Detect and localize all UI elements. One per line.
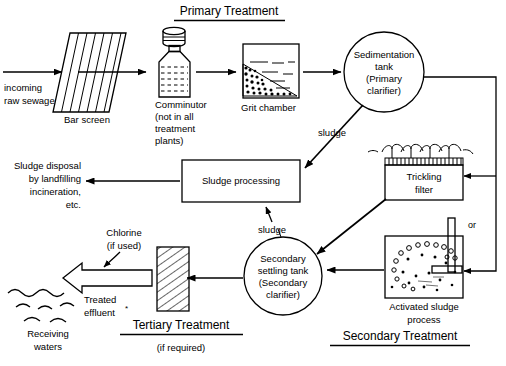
primary-effluent-trunk — [424, 77, 496, 176]
grit-chamber-label: Grit chamber — [241, 102, 296, 113]
arrow-tricklingfilter-to-settling — [317, 199, 386, 254]
secondary-settling-tank-label-line3: (Secondary — [259, 277, 308, 288]
incoming-sewage-label-line2: raw sewage — [4, 95, 55, 106]
activated-sludge-streaks — [418, 277, 444, 286]
receiving-waters-label-line2: waters — [33, 341, 62, 352]
tertiary-treatment-label: Tertiary Treatment — [133, 318, 230, 332]
chlorine-node: Chlorine (if used) — [104, 227, 142, 267]
arrow-chlorine-dose — [104, 252, 120, 267]
activated-sludge-label-line1: Activated sludge — [389, 301, 459, 312]
activated-sludge-tank — [385, 236, 463, 298]
treated-effluent-arrow — [63, 263, 152, 293]
comminutor-label-line4: plants) — [155, 135, 184, 146]
primary-sludge-route: sludge — [305, 105, 363, 168]
diffuser-drop-pipe — [448, 218, 455, 272]
arrow-secondary-sludge — [266, 207, 272, 222]
primary-sludge-label: sludge — [318, 127, 346, 138]
sludge-disposal-label-line1: Sludge disposal — [14, 160, 81, 171]
tertiary-treatment-note: (if required) — [157, 342, 206, 353]
sludge-disposal-node: Sludge disposal by landfilling incinerat… — [14, 160, 81, 210]
comminutor-label-line2: (not in all — [155, 111, 194, 122]
heading-tertiary-treatment: Tertiary Treatment (if required) — [120, 318, 243, 352]
secondary-treatment-label: Secondary Treatment — [343, 329, 458, 343]
activated-sludge-label-line2: process — [407, 314, 441, 325]
grit-chamber-node: Grit chamber — [241, 44, 299, 113]
trickling-filter-sprays — [368, 144, 473, 158]
secondary-sludge-route: sludge — [258, 207, 286, 237]
grit-chamber-water-lines — [250, 62, 295, 88]
secondary-settling-tank-label-line2: settling tank — [258, 265, 309, 276]
trickling-filter-node: Trickling filter — [368, 144, 473, 200]
tertiary-treatment-hatch — [157, 247, 189, 311]
sludge-processing-node: Sludge processing — [182, 160, 300, 202]
grit-chamber-grit-pile — [243, 64, 297, 96]
activated-sludge-diffuser — [432, 218, 462, 273]
trickling-filter-media-ticks — [389, 158, 461, 165]
treated-effluent-label-line2: effluent — [84, 307, 115, 318]
sludge-processing-label: Sludge processing — [202, 175, 280, 186]
bar-screen-node: Bar screen — [53, 33, 126, 125]
incoming-sewage-flow: incoming raw sewage — [3, 72, 62, 106]
comminutor-node: Comminutor (not in all treatment plants) — [155, 27, 207, 145]
secondary-to-settling-routes — [317, 199, 386, 270]
sludge-disposal-label-line4: etc. — [66, 199, 81, 210]
sedimentation-tank-label-line1: Sedimentation — [354, 49, 415, 60]
comminutor-motor-top — [163, 27, 185, 34]
incoming-sewage-label-line1: incoming — [4, 82, 42, 93]
treated-effluent-label-line1: Treated — [84, 294, 116, 305]
trickling-filter-label-line1: Trickling — [406, 171, 441, 182]
secondary-sludge-label: sludge — [258, 224, 286, 235]
sludge-disposal-label-line3: incineration, — [30, 186, 81, 197]
diffuser-header — [432, 266, 462, 273]
heading-primary-treatment: Primary Treatment — [174, 4, 285, 20]
tertiary-treatment-node — [157, 247, 189, 311]
secondary-settling-tank-node: Secondary settling tank (Secondary clari… — [244, 237, 322, 315]
comminutor-label-line3: treatment — [155, 123, 195, 134]
treated-effluent-footnote-marker: * — [125, 304, 128, 313]
sedimentation-tank-label-line3: (Primary — [366, 73, 402, 84]
treated-effluent-node: Treated effluent * — [63, 263, 152, 318]
sedimentation-tank-label-line2: tank — [375, 61, 393, 72]
sludge-disposal-label-line2: by landfilling — [29, 173, 81, 184]
comminutor-body — [159, 52, 190, 98]
comminutor-label-line1: Comminutor — [155, 99, 207, 110]
chlorine-label-line1: Chlorine — [106, 227, 141, 238]
primary-treatment-label: Primary Treatment — [180, 4, 279, 18]
or-connector-label: or — [468, 220, 476, 230]
secondary-settling-tank-label-line1: Secondary — [260, 253, 306, 264]
receiving-waters-node: Receiving waters — [8, 290, 74, 352]
comminutor-screen-rows — [161, 67, 188, 91]
sedimentation-tank-label-line4: clarifier) — [367, 85, 401, 96]
process-diagram: Primary Treatment incoming raw sewage Ba… — [0, 0, 506, 366]
bar-screen-label: Bar screen — [64, 114, 110, 125]
sedimentation-tank-node: Sedimentation tank (Primary clarifier) — [344, 32, 424, 112]
chlorine-label-line2: (if used) — [107, 240, 141, 251]
receiving-waters-waves — [8, 290, 74, 323]
receiving-waters-label-line1: Receiving — [27, 328, 69, 339]
heading-secondary-treatment: Secondary Treatment — [330, 329, 470, 345]
secondary-settling-tank-label-line4: clarifier) — [266, 289, 300, 300]
trickling-filter-label-line2: filter — [415, 184, 433, 195]
activated-sludge-node: Activated sludge process — [385, 218, 463, 325]
diagram-canvas: Primary Treatment incoming raw sewage Ba… — [0, 0, 506, 366]
